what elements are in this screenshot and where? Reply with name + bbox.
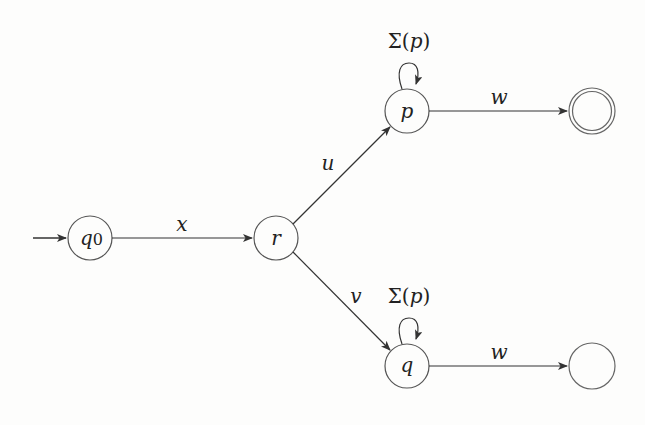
state-q0-subscript: 0 <box>93 230 103 249</box>
state-p-label: p <box>401 99 414 123</box>
edge-q-f2-label: w <box>490 340 507 364</box>
edge-q0-r-label: x <box>176 212 187 236</box>
edge-r-q <box>293 252 390 350</box>
state-q-label: q <box>401 353 414 377</box>
state-q0: q0 <box>68 216 112 260</box>
svg-text:q0: q0 <box>80 226 103 250</box>
state-p: p <box>385 89 429 133</box>
edge-p-f1-label: w <box>490 85 507 109</box>
automaton-diagram: q0 x r u v p Σ(p) w q Σ(p) w <box>0 0 645 425</box>
state-q0-label: q <box>80 226 93 250</box>
self-loop-q-label: Σ(p) <box>388 284 431 308</box>
self-loop-p <box>399 63 418 89</box>
state-q: q <box>385 344 429 388</box>
state-r: r <box>254 216 298 260</box>
state-accepting <box>569 88 615 134</box>
state-final-plain <box>569 343 615 389</box>
edge-r-p <box>293 127 390 224</box>
edge-r-q-label: v <box>350 284 362 308</box>
self-loop-p-label: Σ(p) <box>388 29 431 53</box>
state-r-label: r <box>271 226 282 250</box>
self-loop-q <box>399 318 418 344</box>
edge-r-p-label: u <box>322 151 335 175</box>
